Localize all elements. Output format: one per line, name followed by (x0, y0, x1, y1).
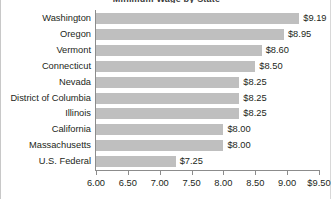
bar-row: Oregon$8.95 (96, 27, 319, 43)
x-axis-tick (160, 171, 161, 175)
bar-row: Nevada$8.25 (96, 75, 319, 91)
x-axis-tick-label: 9.00 (278, 177, 296, 189)
x-axis-tick-label: 8.50 (246, 177, 264, 189)
bar-row: California$8.00 (96, 122, 319, 138)
bar-value-label: $8.25 (243, 107, 266, 119)
x-axis-tick-label: $9.50 (307, 177, 330, 189)
x-axis-tick (319, 171, 320, 175)
x-axis-tick (96, 171, 97, 175)
x-axis-tick (287, 171, 288, 175)
bar-value-label: $8.00 (227, 123, 250, 135)
x-axis-tick-label: 6.50 (119, 177, 137, 189)
category-label: Washington (42, 12, 91, 24)
bar (96, 13, 299, 24)
bar (96, 29, 284, 40)
bar (96, 156, 176, 167)
x-axis-tick (192, 171, 193, 175)
category-label: California (52, 123, 91, 135)
category-label: Nevada (59, 76, 91, 88)
plot-area: Washington$9.19Oregon$8.95Vermont$8.60Co… (96, 11, 319, 170)
bar-chart: Minimum Wage by State 6.006.507.007.508.… (0, 0, 331, 199)
bar-value-label: $9.19 (303, 12, 326, 24)
bar-value-label: $7.25 (180, 155, 203, 167)
bar-row: Connecticut$8.50 (96, 59, 319, 75)
bar-row: Washington$9.19 (96, 11, 319, 27)
bar (96, 61, 255, 72)
bar-row: District of Columbia$8.25 (96, 91, 319, 107)
bar-value-label: $8.00 (227, 139, 250, 151)
category-label: Oregon (60, 28, 91, 40)
chart-title: Minimum Wage by State (1, 0, 331, 3)
category-label: U.S. Federal (39, 155, 91, 167)
bar (96, 140, 223, 151)
bar (96, 45, 262, 56)
bar (96, 124, 223, 135)
x-axis-tick (223, 171, 224, 175)
bar-row: Illinois$8.25 (96, 106, 319, 122)
category-label: Connecticut (42, 60, 91, 72)
category-label: Massachusetts (29, 139, 91, 151)
category-label: District of Columbia (10, 92, 91, 104)
x-axis-tick (128, 171, 129, 175)
bar (96, 108, 239, 119)
bar (96, 77, 239, 88)
x-axis-tick-label: 8.00 (214, 177, 232, 189)
bar-value-label: $8.25 (243, 76, 266, 88)
bar (96, 93, 239, 104)
x-axis-tick (255, 171, 256, 175)
x-axis-tick-label: 6.00 (87, 177, 105, 189)
bar-row: U.S. Federal$7.25 (96, 154, 319, 170)
bar-value-label: $8.95 (288, 28, 311, 40)
bar-value-label: $8.25 (243, 92, 266, 104)
bar-row: Vermont$8.60 (96, 43, 319, 59)
bar-row: Massachusetts$8.00 (96, 138, 319, 154)
category-label: Vermont (56, 44, 91, 56)
bar-value-label: $8.60 (266, 44, 289, 56)
bar-value-label: $8.50 (259, 60, 282, 72)
x-axis-tick-label: 7.00 (151, 177, 169, 189)
category-label: Illinois (65, 107, 91, 119)
x-axis-tick-label: 7.50 (183, 177, 201, 189)
